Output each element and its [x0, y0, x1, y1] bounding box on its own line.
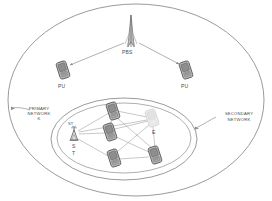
secondary-network-leader — [196, 117, 216, 128]
secondary-network-callout-line1: SECONDARY — [216, 112, 262, 116]
st-inline-label: ST — [68, 122, 74, 126]
pu-right-mobile-phone-icon — [179, 60, 194, 79]
link-pbs-pu-right — [139, 43, 179, 64]
pbs-antenna-tower-icon — [125, 15, 137, 47]
st-label-line-t: T — [72, 151, 75, 156]
link-st-su3 — [78, 139, 110, 157]
link-su2-su4 — [114, 136, 151, 153]
st-label-line-s: S — [72, 144, 76, 149]
st-antenna-tower-small-icon — [70, 126, 79, 140]
link-su1-eve — [117, 111, 147, 117]
link-su3-su4 — [119, 157, 149, 159]
pu-right-label: PU — [181, 84, 188, 89]
eavesdropper-phone-icon — [145, 108, 160, 127]
pbs-label: PBS — [122, 50, 133, 55]
primary-network-leader-arrow — [11, 107, 15, 111]
primary-network-boundary — [8, 4, 264, 196]
secondary-network-callout-line2: NETWORK — [216, 118, 262, 122]
primary-network-callout-line3: K — [20, 117, 58, 121]
link-st-su2 — [79, 133, 105, 134]
diagram-svg — [0, 0, 272, 201]
link-su1-su4 — [116, 117, 153, 149]
su-4-mobile-phone-icon — [148, 145, 163, 164]
link-pbs-pu-left — [70, 43, 124, 65]
su-3-mobile-phone-icon — [107, 148, 122, 167]
pu-left-label: PU — [58, 84, 65, 89]
network-diagram-canvas: PBS PU PU ST S T E PRIMARY NETWORK K SEC… — [0, 0, 272, 201]
pu-left-mobile-phone-icon — [56, 60, 71, 79]
link-su3-eve — [117, 125, 149, 152]
su-1-mobile-phone-icon — [106, 101, 121, 120]
su-2-mobile-phone-icon — [103, 122, 118, 141]
eavesdropper-label: E — [152, 130, 156, 135]
